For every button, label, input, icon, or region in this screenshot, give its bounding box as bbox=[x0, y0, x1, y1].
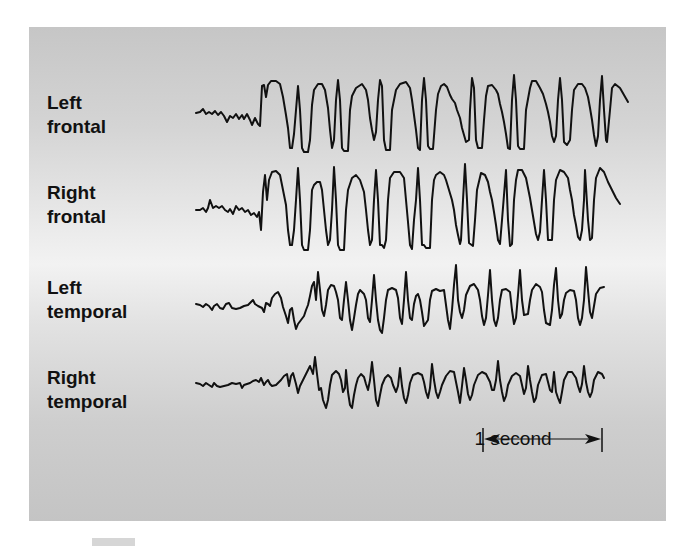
trace-left-temporal bbox=[196, 265, 604, 333]
eeg-traces bbox=[0, 0, 690, 546]
trace-left-frontal bbox=[196, 75, 628, 152]
trace-right-temporal bbox=[196, 357, 604, 408]
scale-bar-label: 1 second bbox=[453, 428, 573, 450]
caption-fragment bbox=[92, 538, 135, 546]
trace-right-frontal bbox=[196, 164, 620, 250]
